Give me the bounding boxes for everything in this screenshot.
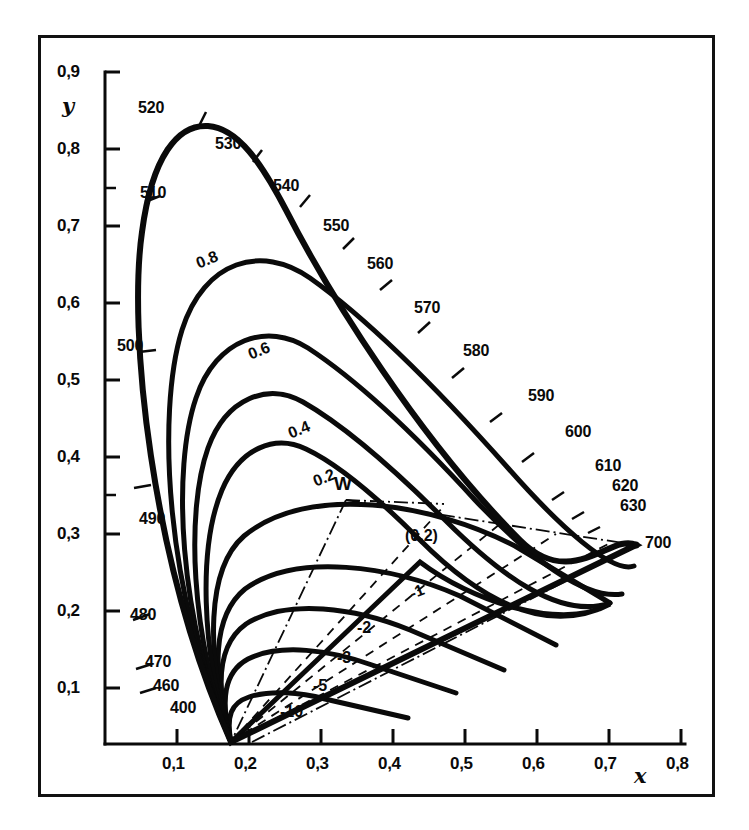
curve-purity-0.2 <box>206 443 610 742</box>
wavelength-label-620: 620 <box>612 478 638 494</box>
y-axis-minor-ticks <box>105 188 116 495</box>
x-axis-name: x <box>634 765 647 786</box>
x-tick-label-0.6: 0,6 <box>522 755 545 772</box>
wavelength-label-550: 550 <box>323 218 349 234</box>
x-tick-label-0.2: 0,2 <box>234 755 257 772</box>
wavelength-label-560: 560 <box>367 256 393 272</box>
y-tick-label-0.7: 0,7 <box>57 217 80 234</box>
x-tick-label-0.3: 0,3 <box>306 755 329 772</box>
wavelength-label-400: 400 <box>170 700 196 716</box>
y-axis-name: y <box>62 95 74 116</box>
wavelength-label-610: 610 <box>595 458 621 474</box>
x-tick-label-0.4: 0,4 <box>378 755 401 772</box>
wavelength-label-600: 600 <box>565 424 591 440</box>
wavelength-label-520: 520 <box>138 100 164 116</box>
contour-label-minus5: -5 <box>313 678 327 694</box>
y-tick-label-0.1: 0,1 <box>57 679 80 696</box>
wavelength-label-570: 570 <box>414 300 440 316</box>
y-tick-label-0.3: 0,3 <box>57 525 80 542</box>
y-tick-label-0.5: 0,5 <box>57 371 80 388</box>
wavelength-label-500: 500 <box>117 338 143 354</box>
purity-origin-label: (0,2) <box>405 528 438 544</box>
wavelength-label-530: 530 <box>215 136 241 152</box>
wavelength-label-590: 590 <box>528 388 554 404</box>
y-tick-label-0.8: 0,8 <box>57 140 80 157</box>
wavelength-label-510: 510 <box>140 185 166 201</box>
y-axis-ticks <box>105 72 120 688</box>
white-point-label: W <box>334 474 352 493</box>
wavelength-label-540: 540 <box>273 178 299 194</box>
wavelength-label-480: 480 <box>130 607 156 623</box>
y-tick-label-0.9: 0,9 <box>57 63 80 80</box>
y-tick-label-0.2: 0,2 <box>57 602 80 619</box>
contour-label-minus10: -10 <box>280 704 303 720</box>
wavelength-label-460: 460 <box>153 678 179 694</box>
x-tick-label-0.7: 0,7 <box>594 755 617 772</box>
wavelength-label-630: 630 <box>620 498 646 514</box>
contour-label-minus2: -2 <box>357 620 371 636</box>
chromaticity-plot <box>0 0 749 830</box>
contour-label-minus3: -3 <box>337 650 351 666</box>
x-tick-label-0.5: 0,5 <box>450 755 473 772</box>
wavelength-label-490: 490 <box>139 511 165 527</box>
wavelength-label-700: 700 <box>645 535 671 551</box>
y-tick-label-0.4: 0,4 <box>57 448 80 465</box>
y-tick-label-0.6: 0,6 <box>57 294 80 311</box>
wavelength-label-580: 580 <box>463 343 489 359</box>
locus-700-vertex <box>633 542 640 549</box>
x-tick-label-0.8: 0,8 <box>666 755 689 772</box>
screenshot-page: 0,9 0,8 0,7 0,6 0,5 0,4 0,3 0,2 0,1 0,1 … <box>0 0 749 830</box>
wavelength-label-470: 470 <box>145 654 171 670</box>
x-tick-label-0.1: 0,1 <box>162 755 185 772</box>
